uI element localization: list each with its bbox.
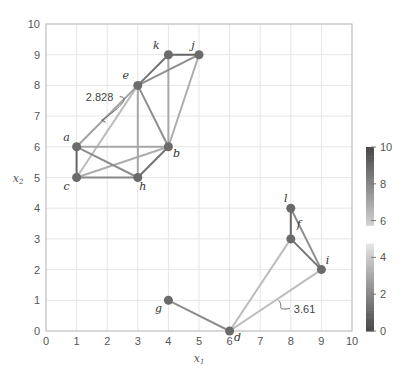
colorbar-tick-label: 4 (380, 251, 386, 263)
x-tick-label: 4 (165, 335, 171, 347)
edge-f-i (291, 239, 322, 270)
colorbar-tick-label: 6 (380, 215, 386, 227)
y-tick-label: 3 (34, 233, 40, 245)
nodes: abcdefghijkl (63, 39, 329, 344)
node-label-j: j (188, 39, 195, 52)
edge-c-b (77, 147, 169, 178)
x-tick-label: 5 (196, 335, 202, 347)
colorbar: 0246810 (366, 141, 392, 337)
colorbar-tick-label: 10 (380, 141, 392, 153)
colorbar-tick-label: 0 (380, 325, 386, 337)
node-label-b: b (173, 147, 180, 160)
x-tick-label: 0 (43, 335, 49, 347)
node-label-e: e (123, 69, 130, 82)
node-c (72, 173, 81, 182)
node-label-a: a (63, 131, 70, 144)
x-tick-label: 10 (346, 335, 358, 347)
annotation-label: 3.61 (294, 303, 315, 315)
node-e (133, 81, 142, 90)
node-label-g: g (155, 302, 162, 315)
node-d (225, 327, 234, 336)
y-axis-label: x2 (13, 172, 24, 186)
colorbar-tick-label: 2 (380, 288, 386, 300)
annotation-label: 2.828 (86, 91, 114, 103)
node-f (286, 234, 295, 243)
y-tick-label: 1 (34, 294, 40, 306)
edge-e-k (138, 55, 169, 86)
node-label-c: c (64, 180, 70, 193)
x-tick-label: 6 (227, 335, 233, 347)
edge-annotations: 2.8283.61 (86, 91, 316, 315)
node-l (286, 204, 295, 213)
node-b (164, 142, 173, 151)
node-label-h: h (139, 180, 146, 193)
x-tick-label: 9 (318, 335, 324, 347)
colorbar-tick-label: 8 (380, 178, 386, 190)
node-g (164, 296, 173, 305)
x-tick-label: 7 (257, 335, 263, 347)
node-label-i: i (326, 254, 330, 267)
x-axis-label: x1 (194, 352, 205, 366)
x-tick-label: 2 (104, 335, 110, 347)
colorbar-segment (366, 244, 374, 247)
y-tick-label: 6 (34, 141, 40, 153)
x-tick-label: 1 (74, 335, 80, 347)
y-tick-label: 2 (34, 264, 40, 276)
y-tick-label: 10 (28, 18, 40, 30)
node-i (317, 265, 326, 274)
annotation-leader (279, 300, 290, 309)
y-tick-label: 7 (34, 110, 40, 122)
y-tick-label: 9 (34, 49, 40, 61)
node-j (195, 50, 204, 59)
y-tick-label: 0 (34, 325, 40, 337)
node-a (72, 142, 81, 151)
node-label-d: d (234, 331, 241, 344)
network-chart: 012345678910012345678910x1x2 2.8283.61 a… (0, 0, 409, 372)
x-tick-label: 3 (135, 335, 141, 347)
node-label-k: k (153, 39, 160, 52)
y-tick-label: 5 (34, 172, 40, 184)
y-tick-label: 8 (34, 79, 40, 91)
node-k (164, 50, 173, 59)
node-label-l: l (284, 192, 288, 205)
x-tick-label: 8 (288, 335, 294, 347)
y-tick-label: 4 (34, 202, 40, 214)
